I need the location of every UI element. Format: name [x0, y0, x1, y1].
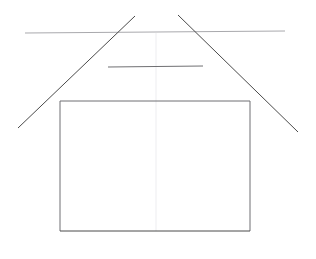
geometric-construction-figure — [0, 0, 316, 259]
figure-background — [0, 0, 316, 259]
diagram-canvas: 图 — 几何作图（顶部文字被裁切） — [0, 0, 316, 259]
